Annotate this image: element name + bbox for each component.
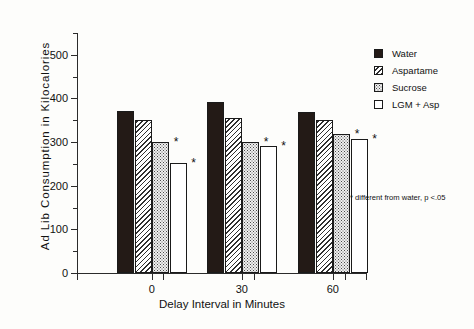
legend-label: Sucrose [392, 82, 427, 93]
significance-marker-lgm-asp-30: * [281, 140, 286, 152]
legend-item-lgm-asp: LGM + Asp [374, 97, 439, 112]
bar-aspartame-30 [225, 118, 242, 273]
x-bound-tick-1 [366, 274, 367, 280]
y-minor-tick-150 [73, 208, 78, 209]
y-tick-label-300: 300 [50, 136, 68, 148]
significance-marker-lgm-asp-0: * [191, 157, 196, 169]
bar-water-60 [298, 112, 315, 273]
bar-aspartame-60 [316, 120, 333, 273]
x-bound-tick-0 [77, 274, 78, 280]
x-axis-line [77, 273, 367, 274]
y-tick-400 [71, 98, 78, 99]
x-tick-label-30: 30 [236, 283, 248, 295]
bar-sucrose-30 [242, 142, 259, 273]
x-tick-30 [242, 274, 243, 280]
legend-item-sucrose: Sucrose [374, 80, 439, 95]
legend-item-water: Water [374, 46, 439, 61]
y-minor-tick-550 [73, 33, 78, 34]
bar-sucrose-60 [333, 134, 350, 273]
y-tick-300 [71, 142, 78, 143]
significance-marker-sucrose-0: * [174, 136, 179, 148]
significance-marker-sucrose-30: * [264, 136, 269, 148]
x-minor-tick-0 [163, 274, 164, 280]
bar-aspartame-0 [135, 120, 152, 273]
y-tick-label-100: 100 [50, 223, 68, 235]
x-axis-title: Delay Interval in Minutes [77, 298, 367, 310]
bar-water-30 [207, 102, 224, 273]
y-tick-label-400: 400 [50, 92, 68, 104]
legend: WaterAspartameSucroseLGM + Asp [374, 46, 439, 114]
legend-label: LGM + Asp [392, 99, 439, 110]
y-tick-label-0: 0 [62, 267, 68, 279]
bar-chart-figure: Ad Lib Consumption in Kilocalories 01002… [0, 0, 474, 329]
x-tick-label-60: 60 [327, 283, 339, 295]
y-minor-tick-350 [73, 120, 78, 121]
bar-lgm-asp-0 [170, 163, 187, 273]
y-axis-line [77, 33, 78, 274]
significance-footnote: * different from water, p <.05 [350, 193, 445, 202]
significance-marker-sucrose-60: * [355, 128, 360, 140]
x-tick-0 [152, 274, 153, 280]
y-tick-500 [71, 55, 78, 56]
y-tick-100 [71, 229, 78, 230]
y-minor-tick-450 [73, 77, 78, 78]
x-minor-tick-1 [254, 274, 255, 280]
legend-swatch-open-icon [374, 100, 383, 109]
legend-item-aspartame: Aspartame [374, 63, 439, 78]
legend-label: Water [392, 48, 417, 59]
bar-sucrose-0 [152, 142, 169, 273]
y-tick-200 [71, 186, 78, 187]
y-minor-tick-250 [73, 164, 78, 165]
bar-water-0 [117, 111, 134, 273]
y-tick-label-200: 200 [50, 180, 68, 192]
legend-swatch-dots-icon [374, 83, 383, 92]
legend-swatch-hatch-icon [374, 66, 383, 75]
x-tick-label-0: 0 [149, 283, 155, 295]
plot-area: 0100200300400500 03060 ****** [77, 33, 367, 274]
x-minor-tick-2 [345, 274, 346, 280]
legend-label: Aspartame [392, 65, 438, 76]
y-tick-label-500: 500 [50, 49, 68, 61]
bar-lgm-asp-30 [260, 146, 277, 273]
bar-lgm-asp-60 [351, 139, 368, 273]
x-tick-60 [333, 274, 334, 280]
significance-marker-lgm-asp-60: * [372, 133, 377, 145]
legend-swatch-solid-icon [374, 49, 383, 58]
y-minor-tick-50 [73, 251, 78, 252]
